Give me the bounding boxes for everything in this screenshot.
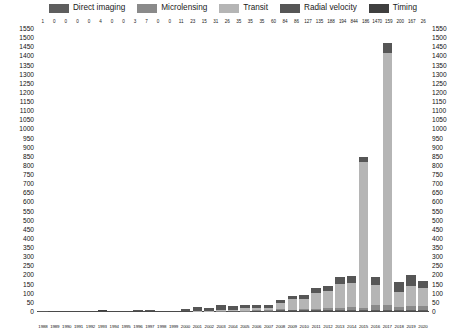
x-tick-label: 1995 (120, 320, 132, 333)
y-tick-label: 550 (23, 207, 34, 214)
y-tick-label: 1300 (432, 70, 447, 77)
bar-column[interactable] (310, 28, 322, 311)
x-tick-label: 2017 (381, 320, 393, 333)
y-tick-label: 200 (432, 271, 443, 278)
bar-total-label: 1 (37, 17, 49, 27)
legend-label-radial_velocity: Radial velocity (304, 3, 357, 13)
bar-column[interactable] (239, 28, 251, 311)
y-tick-label: 250 (23, 262, 34, 269)
bar-column[interactable] (322, 28, 334, 311)
bar-column[interactable] (298, 28, 310, 311)
bar-stack (371, 277, 381, 311)
y-tick-label: 1550 (19, 25, 34, 32)
bar-column[interactable] (393, 28, 405, 311)
y-tick-label: 1450 (432, 43, 447, 50)
bar-segment (418, 281, 428, 289)
bar-column[interactable] (215, 28, 227, 311)
x-tick-label: 2000 (180, 320, 192, 333)
bar-segment (347, 276, 357, 284)
legend-swatch-microlensing (137, 4, 157, 13)
x-tick-label: 2011 (310, 320, 322, 333)
bar-column[interactable] (417, 28, 429, 311)
bar-stack (323, 286, 333, 311)
x-tick-label: 2014 (346, 320, 358, 333)
bar-column[interactable] (191, 28, 203, 311)
bar-total-label: 0 (152, 17, 164, 27)
bar-stack (252, 305, 262, 311)
bar-column[interactable] (381, 28, 393, 311)
bar-segment (299, 299, 309, 310)
x-tick-label: 1991 (73, 320, 85, 333)
bar-column[interactable] (358, 28, 370, 311)
y-axis-left: 1550150014501400135013001250120011501100… (2, 28, 34, 318)
bar-column[interactable] (37, 28, 49, 311)
x-tick-label: 1999 (168, 320, 180, 333)
bar-column[interactable] (132, 28, 144, 311)
legend-entry-timing[interactable]: Timing (369, 3, 417, 13)
legend-entry-transit[interactable]: Transit (219, 3, 268, 13)
bar-column[interactable] (227, 28, 239, 311)
bar-stack (204, 308, 214, 311)
bar-column[interactable] (286, 28, 298, 311)
x-tick-label: 2009 (286, 320, 298, 333)
bar-column[interactable] (275, 28, 287, 311)
y-tick-label: 900 (23, 143, 34, 150)
y-tick-label: 850 (23, 152, 34, 159)
bar-total-label: 0 (49, 17, 61, 27)
bar-column[interactable] (96, 28, 108, 311)
bar-column[interactable] (334, 28, 346, 311)
bar-column[interactable] (61, 28, 73, 311)
bar-column[interactable] (85, 28, 97, 311)
bar-column[interactable] (108, 28, 120, 311)
bar-stack (311, 288, 321, 311)
bar-column[interactable] (263, 28, 275, 311)
y-tick-label: 400 (432, 234, 443, 241)
bar-column[interactable] (49, 28, 61, 311)
bar-segment (311, 310, 321, 311)
bar-segment (383, 310, 393, 311)
y-tick-label: 1000 (19, 125, 34, 132)
bar-stack (335, 277, 345, 311)
bar-segment (311, 293, 321, 309)
bar-totals-row: 1000040037001123153126353535608486127135… (37, 17, 429, 27)
bar-column[interactable] (370, 28, 382, 311)
bar-segment (406, 286, 416, 306)
legend-entry-direct_imaging[interactable]: Direct imaging (49, 3, 125, 13)
bar-column[interactable] (73, 28, 85, 311)
bar-column[interactable] (144, 28, 156, 311)
bar-column[interactable] (346, 28, 358, 311)
bar-segment (418, 288, 428, 306)
x-tick-label: 2012 (322, 320, 334, 333)
bar-segment (371, 277, 381, 284)
y-tick-label: 900 (432, 143, 443, 150)
bar-total-label: 0 (118, 17, 130, 27)
legend-entry-microlensing[interactable]: Microlensing (137, 3, 207, 13)
x-tick-label: 2001 (191, 320, 203, 333)
x-tick-label: 1994 (108, 320, 120, 333)
bar-segment (359, 162, 369, 308)
bar-column[interactable] (168, 28, 180, 311)
legend-entry-radial_velocity[interactable]: Radial velocity (280, 3, 357, 13)
bar-segment (371, 310, 381, 311)
bar-column[interactable] (180, 28, 192, 311)
bar-column[interactable] (203, 28, 215, 311)
bar-column[interactable] (156, 28, 168, 311)
bar-segment (359, 310, 369, 311)
bar-segment (383, 43, 393, 53)
y-tick-label: 1350 (432, 61, 447, 68)
bar-chart-plot (37, 28, 429, 312)
bar-total-label: 0 (106, 17, 118, 27)
bar-column[interactable] (120, 28, 132, 311)
x-tick-label: 2016 (370, 320, 382, 333)
y-tick-label: 1500 (432, 34, 447, 41)
bar-segment (299, 310, 309, 311)
x-tick-label: 1993 (96, 320, 108, 333)
x-tick-label: 1990 (61, 320, 73, 333)
bar-column[interactable] (405, 28, 417, 311)
bar-total-label: 167 (406, 17, 418, 27)
x-tick-label: 1996 (132, 320, 144, 333)
bar-total-label: 26 (222, 17, 234, 27)
legend-swatch-timing (369, 4, 389, 13)
bar-column[interactable] (251, 28, 263, 311)
y-tick-label: 1150 (432, 98, 446, 105)
